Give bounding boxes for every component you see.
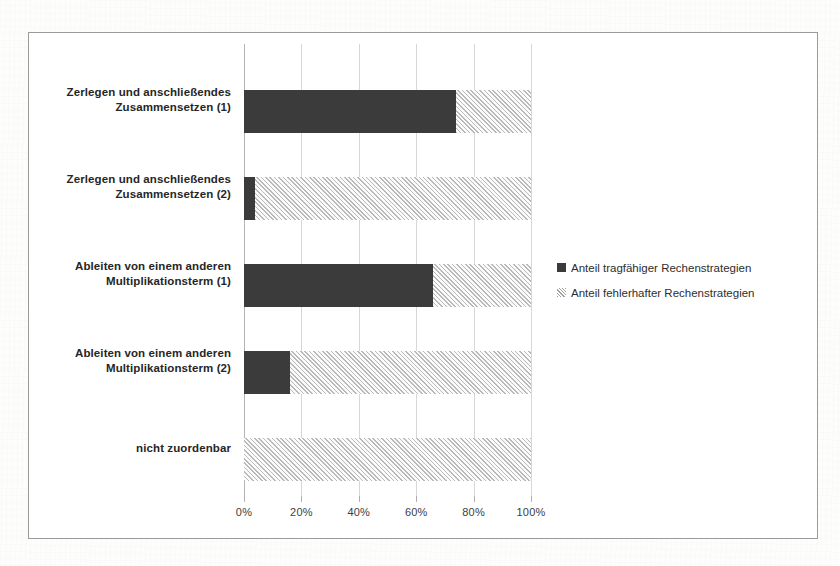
category-label-2-line1: Ableiten von einem anderen bbox=[1, 259, 231, 274]
bar-row bbox=[244, 177, 531, 220]
category-label-2: Ableiten von einem anderen Multiplikatio… bbox=[1, 259, 231, 289]
bar-segment-2-1 bbox=[433, 264, 531, 307]
category-label-1-line1: Zerlegen und anschließendes bbox=[1, 172, 231, 187]
category-label-2-line2: Multiplikationsterm (1) bbox=[1, 274, 231, 289]
category-label-4-line1: nicht zuordenbar bbox=[1, 441, 231, 456]
x-axis-label-40%: 40% bbox=[347, 506, 370, 518]
category-label-3-line1: Ableiten von einem anderen bbox=[1, 346, 231, 361]
category-label-1-line2: Zusammensetzen (2) bbox=[1, 187, 231, 202]
category-label-4: nicht zuordenbar bbox=[1, 441, 231, 456]
x-axis-label-20%: 20% bbox=[290, 506, 313, 518]
chart-frame: Zerlegen und anschließendes Zusammensetz… bbox=[28, 32, 818, 539]
x-tick-0% bbox=[244, 496, 245, 502]
chart-legend: Anteil tragfähiger Rechenstrategien Ante… bbox=[557, 255, 807, 305]
category-label-0: Zerlegen und anschließendes Zusammensetz… bbox=[1, 85, 231, 115]
x-tick-40% bbox=[359, 496, 360, 502]
x-tick-100% bbox=[531, 496, 532, 502]
bar-segment-0-0 bbox=[244, 90, 456, 133]
legend-item-1: Anteil fehlerhafter Rechenstrategien bbox=[557, 280, 807, 305]
bar-segment-2-0 bbox=[244, 264, 433, 307]
x-tick-80% bbox=[474, 496, 475, 502]
bar-row bbox=[244, 438, 531, 481]
bar-segment-1-0 bbox=[244, 177, 255, 220]
category-label-3: Ableiten von einem anderen Multiplikatio… bbox=[1, 346, 231, 376]
bar-row bbox=[244, 90, 531, 133]
bar-segment-4-1 bbox=[244, 438, 531, 481]
x-tick-60% bbox=[416, 496, 417, 502]
hatched-square-icon bbox=[557, 288, 566, 297]
category-label-0-line1: Zerlegen und anschließendes bbox=[1, 85, 231, 100]
bar-segment-0-1 bbox=[456, 90, 531, 133]
gridline-100% bbox=[531, 44, 532, 496]
category-label-1: Zerlegen und anschließendes Zusammensetz… bbox=[1, 172, 231, 202]
legend-item-0-label: Anteil tragfähiger Rechenstrategien bbox=[571, 262, 751, 274]
x-axis-label-80%: 80% bbox=[462, 506, 485, 518]
bar-row bbox=[244, 264, 531, 307]
x-axis-label-0%: 0% bbox=[236, 506, 252, 518]
x-tick-20% bbox=[301, 496, 302, 502]
bar-segment-1-1 bbox=[255, 177, 531, 220]
bar-row bbox=[244, 351, 531, 394]
dark-square-icon bbox=[557, 263, 566, 272]
bar-segment-3-1 bbox=[290, 351, 531, 394]
bar-segment-3-0 bbox=[244, 351, 290, 394]
plot-area bbox=[244, 44, 531, 496]
legend-item-0: Anteil tragfähiger Rechenstrategien bbox=[557, 255, 807, 280]
category-label-0-line2: Zusammensetzen (1) bbox=[1, 100, 231, 115]
category-label-3-line2: Multiplikationsterm (2) bbox=[1, 361, 231, 376]
x-axis-label-60%: 60% bbox=[405, 506, 428, 518]
legend-item-1-label: Anteil fehlerhafter Rechenstrategien bbox=[571, 287, 754, 299]
x-axis-label-100%: 100% bbox=[517, 506, 546, 518]
